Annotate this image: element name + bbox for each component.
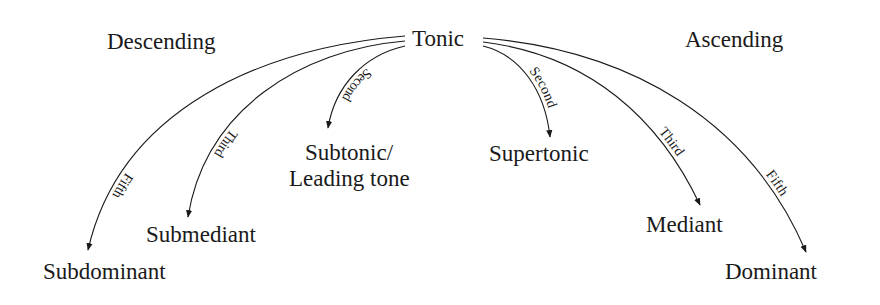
descending-fifth-label: Fifth <box>110 171 136 201</box>
ascending-third-arrow <box>483 42 700 205</box>
ascending-second-label: Second <box>527 64 560 110</box>
descending-heading: Descending <box>107 29 216 55</box>
descending-second-arrow <box>328 46 405 128</box>
supertonic-label: Supertonic <box>489 141 589 167</box>
ascending-heading: Ascending <box>685 27 783 53</box>
submediant-label: Submediant <box>146 222 256 248</box>
tonic-label: Tonic <box>412 26 464 52</box>
leading-tone-line: Leading tone <box>289 166 409 192</box>
dominant-label: Dominant <box>725 259 817 285</box>
subdominant-label: Subdominant <box>43 259 166 285</box>
subtonic-line: Subtonic/ <box>289 140 409 166</box>
subtonic-leading-tone-label: Subtonic/ Leading tone <box>289 140 409 193</box>
mediant-label: Mediant <box>646 212 723 238</box>
